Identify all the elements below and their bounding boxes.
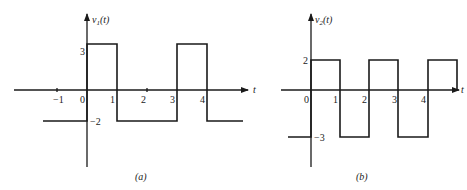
x-label-a: t — [253, 84, 256, 95]
caption-a: (a) — [135, 171, 147, 183]
diagram-canvas: t v1(t) −1 0 1 2 3 4 3 −2 (a) t v2(t) 0 … — [0, 0, 467, 190]
tick-label-b-1: 1 — [333, 94, 338, 105]
y-label-a: v1(t) — [92, 14, 110, 27]
y-tick-label-a-3: 3 — [80, 46, 85, 57]
tick-label-a-neg1: −1 — [53, 94, 64, 105]
tick-label-a-1: 1 — [110, 94, 115, 105]
tick-label-b-0: 0 — [304, 94, 309, 105]
tick-label-a-4: 4 — [200, 94, 205, 105]
x-label-b: t — [461, 84, 464, 95]
waveform-v2 — [288, 60, 457, 137]
y-tick-label-b-2: 2 — [303, 55, 308, 66]
y-label-b: v2(t) — [315, 14, 333, 27]
panel-a: t v1(t) −1 0 1 2 3 4 3 −2 (a) — [14, 14, 256, 183]
tick-label-a-3: 3 — [170, 94, 175, 105]
waveform-v1 — [43, 44, 243, 121]
tick-label-a-0: 0 — [80, 94, 85, 105]
y-tick-label-a-neg2: −2 — [90, 116, 101, 127]
tick-label-b-3: 3 — [392, 94, 397, 105]
caption-b: (b) — [356, 171, 368, 183]
y-tick-label-b-neg3: −3 — [314, 132, 325, 143]
tick-label-b-2: 2 — [362, 94, 367, 105]
tick-label-b-4: 4 — [421, 94, 426, 105]
tick-label-a-2: 2 — [141, 94, 146, 105]
panel-b: t v2(t) 0 1 2 3 4 2 −3 (b) — [281, 14, 464, 183]
